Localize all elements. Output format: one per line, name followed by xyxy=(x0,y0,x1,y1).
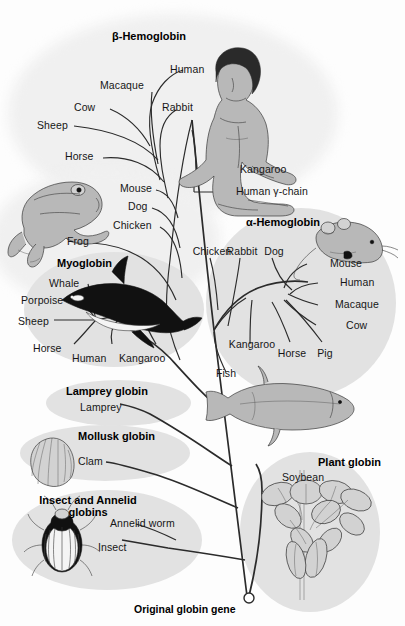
taxon-label-myoglobin-sheep: Sheep xyxy=(18,316,49,327)
group-heading-insect-annelid-globins: Insect and Annelid globins xyxy=(22,494,154,519)
taxon-label-alpha-fish: Fish xyxy=(216,368,236,379)
group-heading-alpha-hemoglobin: α-Hemoglobin xyxy=(246,216,320,228)
taxon-label-alpha-chicken: Chicken xyxy=(193,246,232,257)
taxon-label-alpha-human: Human xyxy=(340,277,374,288)
taxon-label-beta-human: Human xyxy=(170,64,204,75)
taxon-label-beta-horse: Horse xyxy=(65,151,94,162)
taxon-label-beta-chicken: Chicken xyxy=(113,220,152,231)
taxon-label-beta-rabbit: Rabbit xyxy=(162,102,193,113)
taxon-label-beta-sheep: Sheep xyxy=(37,120,68,131)
taxon-label-myoglobin-whale: Whale xyxy=(49,278,79,289)
taxon-label-beta-dog: Dog xyxy=(128,201,148,212)
whale-illustration xyxy=(62,256,202,348)
taxon-label-beta-frog: Frog xyxy=(67,236,89,247)
taxon-label-alpha-mouse: Mouse xyxy=(330,258,362,269)
taxon-label-beta-macaque: Macaque xyxy=(100,80,144,91)
taxon-label-myoglobin-kangaroo: Kangaroo xyxy=(119,353,165,364)
taxon-label-alpha-horse: Horse xyxy=(278,348,307,359)
taxon-label-alpha-dog: Dog xyxy=(264,246,284,257)
group-heading-beta-hemoglobin: β-Hemoglobin xyxy=(112,30,186,42)
group-heading-mollusk-globin: Mollusk globin xyxy=(78,430,155,442)
taxon-label-alpha-kangaroo: Kangaroo xyxy=(229,339,275,350)
taxon-label-alpha-cow: Cow xyxy=(346,320,367,331)
insect-annelid-line-1: Insect and Annelid xyxy=(22,494,154,506)
taxon-label-myoglobin-porpoise: Porpoise xyxy=(21,295,63,306)
taxon-label-beta-cow: Cow xyxy=(74,102,95,113)
taxon-label-clam: Clam xyxy=(78,456,103,467)
group-heading-lamprey-globin: Lamprey globin xyxy=(66,385,148,397)
illustrations xyxy=(0,0,405,626)
soybean-plant-illustration xyxy=(258,470,374,600)
group-heading-plant-globin: Plant globin xyxy=(318,456,381,468)
taxon-label-lamprey: Lamprey xyxy=(80,402,122,413)
taxon-label-alpha-macaque: Macaque xyxy=(335,299,379,310)
taxon-label-myoglobin-horse: Horse xyxy=(33,343,62,354)
taxon-label-annelid-worm: Annelid worm xyxy=(110,518,175,529)
taxon-label-alpha-rabbit: Rabbit xyxy=(227,246,258,257)
taxon-label-insect: Insect xyxy=(98,542,127,553)
taxon-label-alpha-pig: Pig xyxy=(317,348,332,359)
group-heading-myoglobin: Myoglobin xyxy=(57,257,112,269)
taxon-label-beta-kangaroo: Kangaroo xyxy=(240,164,286,175)
taxon-label-beta-mouse: Mouse xyxy=(120,183,152,194)
clam-illustration xyxy=(31,438,74,487)
frog-illustration xyxy=(8,182,109,267)
taxon-label-beta-human-gamma-chain: Human γ-chain xyxy=(236,186,308,197)
root-node-label: Original globin gene xyxy=(134,603,236,615)
taxon-label-soybean: Soybean xyxy=(282,472,324,483)
taxon-label-myoglobin-human: Human xyxy=(72,353,106,364)
globin-phylogeny-figure: β-Hemoglobin α-Hemoglobin Myoglobin Lamp… xyxy=(0,0,405,626)
